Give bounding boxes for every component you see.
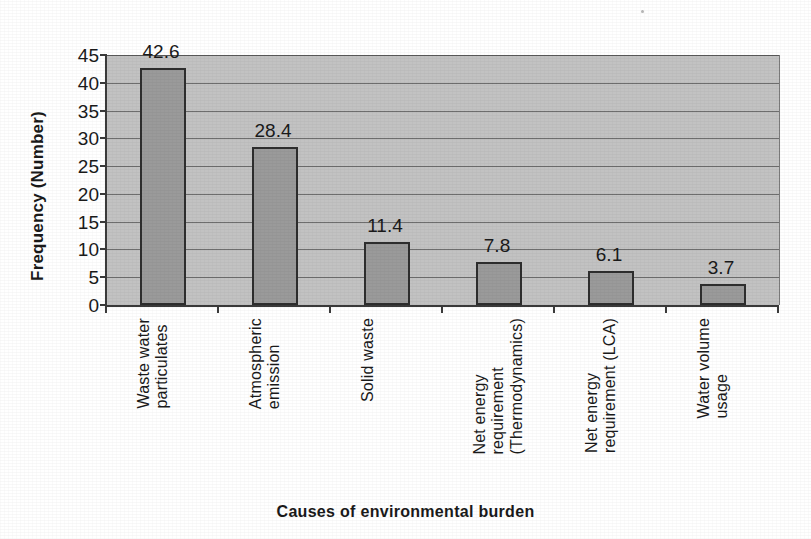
x-tick-mark [441, 305, 443, 313]
gridline [107, 222, 779, 223]
x-category-label: Waste water particulates [135, 318, 172, 409]
gridline [107, 111, 779, 112]
x-tick-mark [553, 305, 555, 313]
y-tick-label: 45 [78, 46, 99, 65]
x-tick-mark [777, 305, 779, 313]
y-axis-title: Frequency (Number) [28, 86, 48, 306]
x-category-label: Net energy requirement (LCA) [583, 318, 620, 453]
x-tick-mark [217, 305, 219, 313]
y-tick-label: 40 [78, 73, 99, 92]
y-tick-mark [100, 137, 107, 139]
x-tick-mark [105, 305, 107, 313]
y-tick-label: 35 [78, 101, 99, 120]
y-tick-label: 30 [78, 129, 99, 148]
gridline [107, 83, 779, 84]
y-tick-label: 20 [78, 184, 99, 203]
y-tick-label: 15 [78, 212, 99, 231]
bar-value-label: 28.4 [255, 121, 292, 140]
bar[interactable] [364, 242, 410, 305]
x-category-label: Solid waste [359, 318, 377, 402]
bar-value-label: 7.8 [484, 236, 510, 255]
gridline [107, 277, 779, 278]
y-tick-mark [100, 54, 107, 56]
y-axis-tick-labels: 051015202530354045 [55, 55, 99, 305]
y-tick-label: 5 [88, 268, 99, 287]
y-tick-mark [100, 248, 107, 250]
y-tick-label: 0 [88, 296, 99, 315]
bar-value-label: 3.7 [708, 258, 734, 277]
plot-area [105, 55, 779, 307]
plot-right-spine [779, 55, 780, 305]
gridline [107, 194, 779, 195]
bar[interactable] [476, 262, 522, 305]
bar[interactable] [588, 271, 634, 305]
bar[interactable] [252, 147, 298, 305]
x-category-label: Net energy requirement (Thermodynamics) [471, 318, 526, 455]
y-tick-label: 10 [78, 240, 99, 259]
y-tick-label: 25 [78, 157, 99, 176]
bar-chart-figure: Frequency (Number) 051015202530354045 42… [0, 0, 811, 539]
gridline [107, 55, 779, 56]
x-axis-title: Causes of environmental burden [0, 503, 811, 521]
bar[interactable] [700, 284, 746, 305]
gridline [107, 166, 779, 167]
x-tick-mark [329, 305, 331, 313]
bar[interactable] [140, 68, 186, 305]
y-tick-mark [100, 276, 107, 278]
y-tick-mark [100, 165, 107, 167]
x-category-label: Atmospheric emission [247, 318, 284, 409]
scan-speck [641, 10, 644, 13]
gridline [107, 138, 779, 139]
x-tick-mark [665, 305, 667, 313]
y-tick-mark [100, 82, 107, 84]
y-tick-mark [100, 193, 107, 195]
y-tick-mark [100, 110, 107, 112]
x-category-label: Water volume usage [695, 318, 732, 419]
gridline [107, 249, 779, 250]
y-tick-mark [100, 221, 107, 223]
bar-value-label: 11.4 [367, 216, 403, 235]
bar-value-label: 42.6 [143, 42, 180, 61]
bar-value-label: 6.1 [596, 245, 622, 264]
